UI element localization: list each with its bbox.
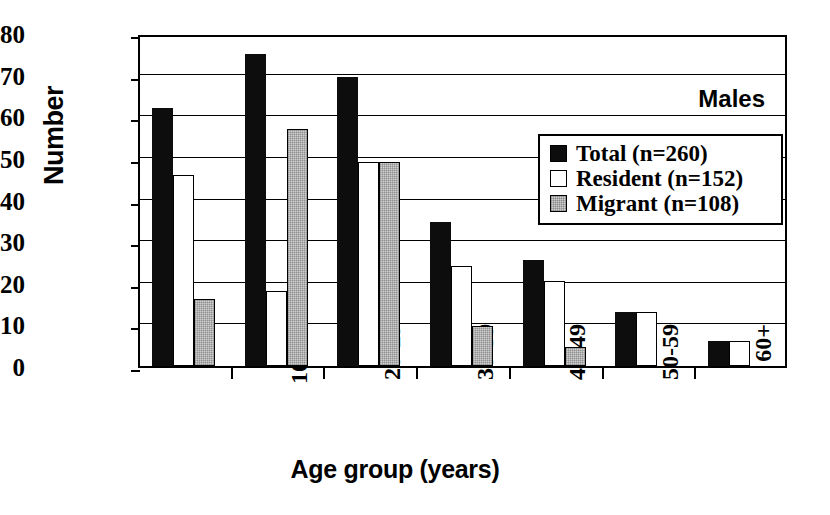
bar-total	[523, 260, 544, 366]
gray-swatch-icon	[550, 195, 567, 212]
bar-total	[430, 222, 451, 366]
y-tick-mark	[131, 204, 140, 206]
bar-resident	[266, 291, 287, 366]
legend-item: Resident (n=152)	[550, 166, 773, 191]
legend-item: Total (n=260)	[550, 141, 773, 166]
chart-canvas: Number 01020304050607080 Males 0-910–192…	[0, 0, 830, 515]
bar-total	[245, 54, 266, 366]
y-tick-label: 10	[0, 313, 25, 338]
y-tick-mark	[131, 287, 140, 289]
bar-total	[708, 341, 729, 366]
legend-item: Migrant (n=108)	[550, 191, 773, 216]
bar-resident	[636, 312, 657, 366]
y-tick-label: 20	[0, 272, 25, 297]
bar-migrant	[565, 347, 586, 366]
x-tick-mark	[416, 368, 418, 379]
y-tick-label: 60	[0, 105, 25, 130]
x-tick-mark	[323, 368, 325, 379]
legend-label: Migrant (n=108)	[576, 192, 739, 215]
males-annotation: Males	[698, 85, 765, 113]
y-tick-mark	[131, 162, 140, 164]
bar-resident	[451, 266, 472, 366]
y-tick-label: 80	[0, 22, 25, 47]
x-tick-label: 50-59	[657, 324, 684, 444]
x-tick-label: 60+	[750, 324, 777, 444]
y-tick-label: 50	[0, 147, 25, 172]
bar-total	[152, 108, 173, 366]
y-tick-mark	[131, 37, 140, 39]
y-tick-label: 40	[0, 189, 25, 214]
y-tick-mark	[131, 120, 140, 122]
bar-total	[615, 312, 636, 366]
y-tick-mark	[131, 245, 140, 247]
bar-resident	[358, 162, 379, 366]
bar-migrant	[287, 129, 308, 366]
y-tick-mark	[131, 79, 140, 81]
y-axis-title: Number	[39, 36, 70, 236]
bar-migrant	[379, 162, 400, 366]
legend: Total (n=260) Resident (n=152) Migrant (…	[538, 134, 783, 225]
bar-migrant	[194, 299, 215, 366]
x-tick-mark	[231, 368, 233, 379]
bar-resident	[729, 341, 750, 366]
x-axis-title: Age group (years)	[115, 455, 675, 484]
white-swatch-icon	[550, 170, 567, 187]
bar-resident	[173, 175, 194, 366]
y-tick-label: 0	[0, 355, 25, 380]
legend-label: Resident (n=152)	[576, 167, 743, 190]
y-tick-label: 70	[0, 64, 25, 89]
bar-total	[337, 77, 358, 366]
y-tick-mark	[131, 328, 140, 330]
x-tick-mark	[602, 368, 604, 379]
x-tick-mark	[694, 368, 696, 379]
black-swatch-icon	[550, 145, 567, 162]
y-tick-mark	[131, 370, 140, 372]
x-tick-mark	[509, 368, 511, 379]
x-tick-label: 40-49	[564, 324, 591, 444]
legend-label: Total (n=260)	[576, 142, 708, 165]
bar-migrant	[472, 326, 493, 366]
y-tick-label: 30	[0, 230, 25, 255]
bar-resident	[544, 281, 565, 366]
